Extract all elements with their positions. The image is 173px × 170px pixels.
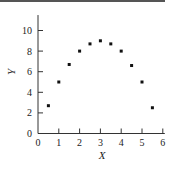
y-tick-label: 8 bbox=[27, 46, 32, 57]
x-tick-label: 1 bbox=[56, 137, 61, 148]
y-tick-label: 2 bbox=[27, 107, 32, 118]
x-tick-label: 6 bbox=[160, 137, 165, 148]
y-tick-label: 6 bbox=[27, 66, 32, 77]
data-point bbox=[68, 63, 71, 66]
data-point bbox=[47, 104, 50, 107]
data-point bbox=[109, 42, 112, 45]
data-point bbox=[141, 81, 144, 84]
axes: 01234560246810 bbox=[22, 15, 165, 147]
x-tick-label: 4 bbox=[119, 137, 124, 148]
x-tick-label: 3 bbox=[98, 137, 103, 148]
data-point bbox=[78, 50, 81, 53]
data-points bbox=[47, 39, 154, 109]
x-tick-label: 2 bbox=[77, 137, 82, 148]
y-tick-label: 4 bbox=[27, 87, 32, 98]
data-point bbox=[130, 64, 133, 67]
x-tick-label: 5 bbox=[140, 137, 145, 148]
data-point bbox=[151, 106, 154, 109]
y-tick-label: 10 bbox=[22, 25, 32, 36]
x-axis-label: X bbox=[98, 149, 107, 161]
data-point bbox=[89, 42, 92, 45]
y-tick-label: 0 bbox=[27, 128, 32, 139]
data-point bbox=[57, 81, 60, 84]
x-tick-label: 0 bbox=[36, 137, 41, 148]
data-point bbox=[99, 39, 102, 42]
data-point bbox=[120, 50, 123, 53]
scatter-chart: 01234560246810 X Y bbox=[0, 0, 173, 170]
y-axis-label: Y bbox=[5, 67, 17, 75]
